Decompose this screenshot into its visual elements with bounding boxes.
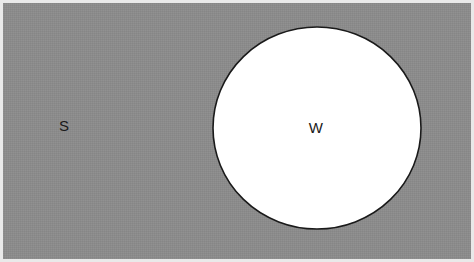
universal-set-label-s: S xyxy=(59,118,69,133)
set-diagram: S W xyxy=(0,0,474,262)
subset-label-w: W xyxy=(309,120,323,135)
set-shapes-layer xyxy=(0,0,474,262)
